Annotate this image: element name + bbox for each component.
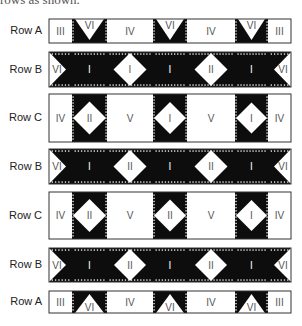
svg-text:I: I	[129, 64, 132, 75]
svg-text:I: I	[88, 260, 91, 271]
quilt-row: VIIIIIIIVI	[49, 52, 291, 87]
svg-text:II: II	[127, 260, 133, 271]
svg-text:I: I	[250, 113, 253, 124]
quilt-block-i: I	[235, 248, 268, 282]
svg-text:IV: IV	[56, 113, 66, 124]
quilt-block-iv: IV	[49, 94, 72, 142]
quilt-row: IIIVIIVVIIVVIIII	[49, 291, 291, 313]
quilt-block-i: I	[72, 149, 107, 184]
quilt-block-i: I	[153, 248, 187, 282]
svg-text:VI: VI	[247, 302, 256, 313]
svg-text:III: III	[275, 297, 283, 308]
quilt-block-vi: VI	[49, 52, 72, 87]
svg-text:VI: VI	[278, 64, 287, 75]
quilt-block-vi: VI	[49, 248, 72, 282]
quilt-block-i: I	[235, 94, 268, 142]
quilt-block-vi: VI	[268, 248, 291, 282]
svg-text:V: V	[208, 113, 215, 124]
svg-text:III: III	[56, 26, 64, 37]
svg-text:VI: VI	[278, 260, 287, 271]
svg-text:IV: IV	[56, 210, 66, 221]
quilt-block-ii: II	[72, 192, 107, 239]
svg-text:I: I	[88, 64, 91, 75]
quilt-block-v: V	[187, 192, 235, 239]
svg-text:VI: VI	[52, 260, 61, 271]
svg-text:III: III	[275, 26, 283, 37]
svg-text:II: II	[127, 161, 133, 172]
quilt-block-vi: VI	[153, 19, 187, 43]
quilt-block-ii: II	[187, 248, 235, 282]
svg-text:III: III	[56, 297, 64, 308]
svg-text:VI: VI	[278, 161, 287, 172]
svg-text:IV: IV	[125, 297, 135, 308]
svg-text:VI: VI	[52, 64, 61, 75]
quilt-block-i: I	[235, 149, 268, 184]
svg-text:V: V	[208, 210, 215, 221]
quilt-row: IVIIVIVIIV	[49, 94, 291, 142]
quilt-row: IVIIVIIVIIV	[49, 192, 291, 239]
quilt-block-vi: VI	[153, 291, 187, 313]
quilt-block-i: I	[153, 149, 187, 184]
svg-text:VI: VI	[52, 161, 61, 172]
svg-text:I: I	[169, 161, 172, 172]
svg-text:I: I	[250, 210, 253, 221]
svg-text:IV: IV	[125, 26, 135, 37]
svg-text:I: I	[169, 64, 172, 75]
quilt-block-vi: VI	[72, 19, 107, 43]
svg-text:IV: IV	[206, 297, 216, 308]
quilt-block-ii: II	[187, 149, 235, 184]
quilt-row: VIIIIIIIIVI	[49, 149, 291, 184]
quilt-block-i: I	[235, 52, 268, 87]
quilt-block-i: I	[72, 52, 107, 87]
quilt-block-iv: IV	[187, 291, 235, 313]
svg-text:I: I	[250, 260, 253, 271]
quilt-block-v: V	[107, 94, 153, 142]
quilt-block-vi: VI	[268, 52, 291, 87]
svg-text:II: II	[208, 64, 214, 75]
quilt-block-ii: II	[187, 52, 235, 87]
quilt-block-iv: IV	[268, 192, 291, 239]
svg-text:I: I	[88, 161, 91, 172]
quilt-block-vi: VI	[268, 149, 291, 184]
svg-text:V: V	[127, 210, 134, 221]
svg-text:II: II	[208, 161, 214, 172]
quilt-row: IIIVIIVVIIVVIIII	[49, 19, 291, 43]
quilt-block-i: I	[107, 52, 153, 87]
quilt-block-iv: IV	[107, 19, 153, 43]
quilt-layout-diagram: IIIVIIVVIIVVIIIIVIIIIIIIVIIVIIVIVIIVVIII…	[0, 0, 302, 326]
svg-text:II: II	[167, 210, 173, 221]
quilt-block-vi: VI	[49, 149, 72, 184]
quilt-block-iv: IV	[268, 94, 291, 142]
quilt-block-ii: II	[153, 192, 187, 239]
svg-text:VI: VI	[165, 20, 174, 31]
svg-text:IV: IV	[275, 210, 285, 221]
quilt-block-ii: II	[72, 94, 107, 142]
quilt-block-iv: IV	[107, 291, 153, 313]
svg-text:V: V	[127, 113, 134, 124]
svg-text:I: I	[169, 260, 172, 271]
svg-text:IV: IV	[275, 113, 285, 124]
quilt-block-vi: VI	[72, 291, 107, 313]
quilt-block-iii: III	[49, 291, 72, 313]
quilt-block-i: I	[72, 248, 107, 282]
quilt-block-iv: IV	[49, 192, 72, 239]
quilt-block-v: V	[187, 94, 235, 142]
quilt-block-ii: II	[107, 248, 153, 282]
quilt-block-i: I	[153, 52, 187, 87]
quilt-block-iii: III	[268, 291, 291, 313]
quilt-block-iii: III	[49, 19, 72, 43]
svg-text:VI: VI	[247, 20, 256, 31]
svg-text:II: II	[87, 210, 93, 221]
svg-text:I: I	[169, 113, 172, 124]
quilt-block-vi: VI	[235, 19, 268, 43]
quilt-block-v: V	[107, 192, 153, 239]
svg-text:VI: VI	[85, 302, 94, 313]
quilt-block-vi: VI	[235, 291, 268, 313]
svg-text:VI: VI	[165, 302, 174, 313]
quilt-block-iii: III	[268, 19, 291, 43]
svg-text:VI: VI	[85, 20, 94, 31]
svg-text:I: I	[250, 64, 253, 75]
quilt-row: VIIIIIIIIVI	[49, 248, 291, 282]
svg-text:II: II	[87, 113, 93, 124]
svg-text:II: II	[208, 260, 214, 271]
